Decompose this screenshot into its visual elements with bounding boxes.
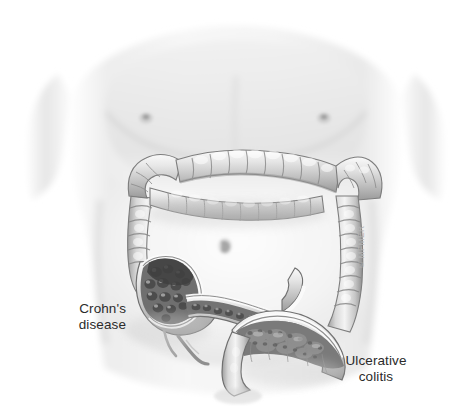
label-crohns-disease: Crohn's disease bbox=[46, 301, 126, 332]
medical-illustration-figure: Crohn's disease Ulcerative colitis © MFM… bbox=[0, 0, 473, 406]
label-ulcerative-colitis: Ulcerative colitis bbox=[328, 353, 424, 384]
anatomy-artwork bbox=[0, 0, 473, 406]
copyright-credit: © MFMER bbox=[356, 204, 366, 268]
navel bbox=[218, 238, 232, 254]
